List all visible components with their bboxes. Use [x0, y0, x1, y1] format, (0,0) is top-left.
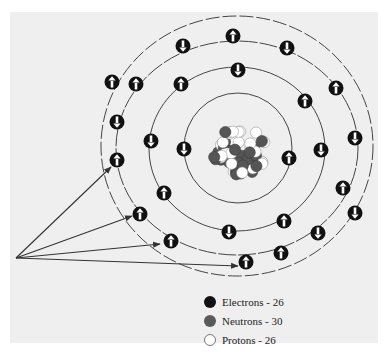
- electron-spin-up-icon: [239, 255, 254, 270]
- electron-spin-up-icon: [174, 77, 189, 92]
- neutron: [244, 147, 255, 158]
- electron-spin-up-icon: [277, 214, 292, 229]
- legend-item-neutrons: Neutrons - 30: [204, 311, 334, 330]
- electron-spin-up-icon: [226, 29, 241, 44]
- electron-spin-down-icon: [348, 206, 363, 221]
- neutron: [251, 161, 262, 172]
- pointer-arrow-2: [16, 216, 132, 258]
- electron-swatch-icon: [204, 296, 216, 308]
- pointer-arrow-4: [16, 258, 238, 266]
- pointer-arrow-3: [16, 244, 160, 258]
- pointer-arrow-1: [16, 167, 111, 258]
- proton: [226, 158, 237, 169]
- electron-spin-up-icon: [282, 151, 297, 166]
- electron-spin-up-icon: [274, 246, 289, 261]
- neutron-swatch-icon: [204, 315, 216, 327]
- electron-spin-up-icon: [133, 207, 148, 222]
- electron-spin-up-icon: [298, 94, 313, 109]
- electron-spin-down-icon: [314, 143, 329, 158]
- electron-spin-down-icon: [177, 142, 192, 157]
- neutron: [209, 152, 220, 163]
- legend-label: Neutrons - 30: [222, 315, 283, 327]
- electron-spin-up-icon: [110, 153, 125, 168]
- legend-label: Electrons - 26: [222, 296, 284, 308]
- neutron: [220, 127, 231, 138]
- electron-spin-down-icon: [280, 41, 295, 56]
- electron-spin-up-icon: [329, 81, 344, 96]
- electron-spin-up-icon: [157, 186, 172, 201]
- electron-spin-up-icon: [336, 181, 351, 196]
- electron-spin-up-icon: [164, 234, 179, 249]
- electron-spin-down-icon: [176, 39, 191, 54]
- neutron: [229, 144, 240, 155]
- electron-spin-down-icon: [311, 226, 326, 241]
- proton: [237, 167, 248, 178]
- electron-spin-down-icon: [231, 63, 246, 78]
- legend-item-protons: Protons - 26: [204, 330, 334, 349]
- legend: Electrons - 26 Neutrons - 30 Protons - 2…: [204, 292, 334, 349]
- electron-spin-down-icon: [222, 225, 237, 240]
- proton: [217, 137, 228, 148]
- electron-spin-up-icon: [129, 77, 144, 92]
- electron-spin-up-icon: [105, 75, 120, 90]
- electron-spin-down-icon: [348, 131, 363, 146]
- nucleus: [209, 126, 270, 180]
- electron-spin-down-icon: [144, 134, 159, 149]
- legend-label: Protons - 26: [222, 334, 276, 346]
- neutron: [256, 136, 267, 147]
- electron-spin-down-icon: [110, 115, 125, 130]
- proton-swatch-icon: [204, 334, 216, 346]
- atom-diagram: Electrons - 26 Neutrons - 30 Protons - 2…: [0, 0, 391, 356]
- legend-item-electrons: Electrons - 26: [204, 292, 334, 311]
